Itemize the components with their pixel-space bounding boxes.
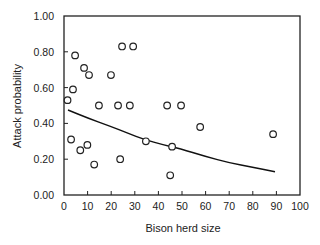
data-point <box>270 131 277 138</box>
y-axis-ticks: 0.000.200.400.600.801.00 <box>34 10 68 201</box>
x-tick-label: 70 <box>223 200 235 212</box>
data-point <box>86 72 93 79</box>
data-point <box>64 97 71 104</box>
x-tick-label: 40 <box>153 200 165 212</box>
y-axis-title: Attack probability <box>11 64 23 148</box>
data-point <box>167 172 174 179</box>
x-tick-label: 60 <box>200 200 212 212</box>
data-point <box>81 65 88 72</box>
scatter-chart: 0102030405060708090100 0.000.200.400.600… <box>0 0 320 245</box>
data-point <box>130 43 137 50</box>
data-point <box>143 138 150 145</box>
y-tick-label: 0.20 <box>34 153 55 165</box>
x-tick-label: 10 <box>82 200 94 212</box>
y-tick-label: 0.80 <box>34 46 55 58</box>
data-point <box>178 102 185 109</box>
data-point <box>77 147 84 154</box>
data-points-layer <box>64 43 276 178</box>
x-tick-label: 30 <box>129 200 141 212</box>
x-tick-label: 50 <box>176 200 188 212</box>
y-tick-label: 0.60 <box>34 82 55 94</box>
trend-line <box>68 110 275 172</box>
data-point <box>72 52 79 59</box>
data-point <box>119 43 126 50</box>
x-tick-label: 0 <box>61 200 67 212</box>
data-point <box>91 161 98 168</box>
data-point <box>164 102 171 109</box>
data-point <box>84 142 91 149</box>
data-point <box>70 86 77 93</box>
x-tick-label: 100 <box>291 200 309 212</box>
data-point <box>68 136 75 143</box>
x-axis-ticks: 0102030405060708090100 <box>61 191 309 212</box>
data-point <box>197 124 204 131</box>
x-tick-label: 80 <box>247 200 259 212</box>
y-tick-label: 1.00 <box>34 10 55 22</box>
data-point <box>96 102 103 109</box>
x-axis-title: Bison herd size <box>145 222 220 234</box>
data-point <box>108 72 115 79</box>
data-point <box>169 143 176 150</box>
x-tick-label: 90 <box>271 200 283 212</box>
trend-line-layer <box>68 110 275 172</box>
data-point <box>127 102 134 109</box>
y-tick-label: 0.40 <box>34 117 55 129</box>
x-tick-label: 20 <box>105 200 117 212</box>
y-tick-label: 0.00 <box>34 189 55 201</box>
data-point <box>117 156 124 163</box>
data-point <box>115 102 122 109</box>
